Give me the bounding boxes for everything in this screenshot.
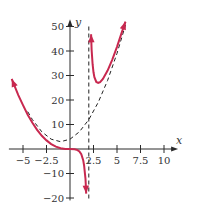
x-tick-label: −2.5	[34, 155, 58, 166]
y-tick-label: −20	[43, 193, 64, 204]
axes	[9, 19, 178, 200]
function-graph: xy−5−2.52.557.5105040302010−10−20	[0, 0, 198, 211]
y-tick-label: 50	[51, 21, 64, 32]
y-tick-label: 10	[51, 119, 64, 130]
x-tick-label: 2.5	[86, 155, 102, 166]
y-tick-label: 20	[51, 95, 64, 106]
asymptote-line	[28, 25, 126, 142]
function-curve	[12, 22, 126, 194]
curve-arrow-icon	[83, 185, 89, 193]
x-axis-arrow-icon	[171, 147, 178, 152]
x-tick-label: −5	[16, 155, 31, 166]
function-branch	[91, 22, 125, 83]
y-tick-label: 30	[51, 70, 64, 81]
y-axis-arrow-icon	[68, 19, 73, 26]
y-tick-label: 40	[51, 46, 64, 57]
x-tick-label: 10	[158, 155, 171, 166]
tick-labels: xy−5−2.52.557.5105040302010−10−20	[16, 16, 183, 203]
curve-arrow-icon	[12, 79, 18, 88]
y-axis-label: y	[74, 16, 82, 29]
y-tick-label: −10	[43, 168, 64, 179]
curve-arrow-icon	[120, 22, 126, 31]
x-tick-label: 7.5	[133, 155, 149, 166]
x-tick-label: 5	[114, 155, 120, 166]
x-axis-label: x	[176, 134, 183, 147]
